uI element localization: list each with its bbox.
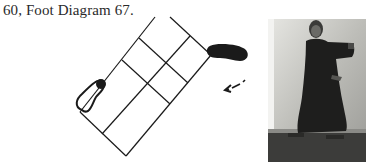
left-foot-icon: [77, 79, 106, 112]
grid-edge-bottom: [80, 112, 126, 156]
grid-edge-right: [126, 55, 211, 156]
right-foot-icon: [207, 44, 248, 61]
historical-photo: [268, 19, 366, 162]
photo-illustration: [268, 19, 366, 162]
grid-edge-left: [80, 17, 155, 112]
movement-arrow-icon: [225, 80, 245, 92]
grid-divider-long: [102, 36, 190, 134]
grid-divider-short-0: [139, 38, 188, 83]
grid-edge-top: [170, 17, 211, 55]
